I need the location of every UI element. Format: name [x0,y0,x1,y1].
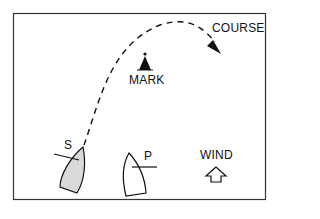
mark-label: MARK [129,74,164,86]
mark-buoy-icon [137,52,153,70]
course-label: COURSE [212,22,265,34]
wind-label: WIND [200,149,233,161]
starboard-boat-icon [54,147,85,193]
starboard-boat-label: S [64,139,72,151]
course-arrowhead-icon [207,40,221,54]
port-boat-label: P [144,150,152,162]
wind-arrow-icon [206,167,226,182]
